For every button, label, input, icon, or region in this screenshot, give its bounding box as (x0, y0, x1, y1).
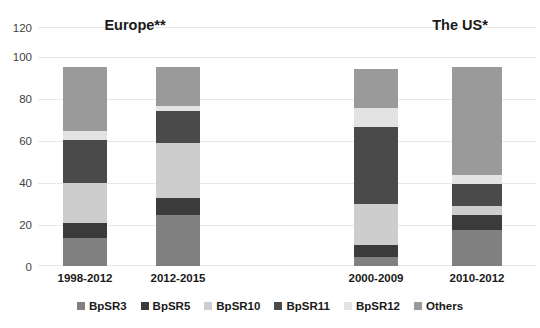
legend-swatch-icon (141, 302, 149, 310)
bar-segment-bpsr3[interactable] (156, 215, 200, 266)
legend-item-bpsr11[interactable]: BpSR11 (274, 300, 329, 312)
legend-label: BpSR12 (356, 300, 400, 312)
y-axis: 120 100 80 60 40 20 0 (0, 0, 38, 328)
group-title-us: The US* (400, 17, 520, 33)
y-tick-60: 60 (0, 135, 32, 147)
y-tick-120: 120 (0, 22, 32, 34)
gridline-100 (38, 57, 536, 58)
bar-segment-others[interactable] (354, 69, 398, 108)
bar-segment-bpsr10[interactable] (156, 143, 200, 198)
legend-label: BpSR3 (89, 300, 127, 312)
y-tick-80: 80 (0, 93, 32, 105)
bar-segment-bpsr11[interactable] (452, 184, 502, 206)
bar-segment-others[interactable] (452, 67, 502, 176)
bar-segment-bpsr10[interactable] (452, 206, 502, 215)
y-tick-40: 40 (0, 177, 32, 189)
bar-2012-2015[interactable] (156, 67, 200, 266)
chart-legend: BpSR3 BpSR5 BpSR10 BpSR11 BpSR12 Others (0, 300, 540, 312)
legend-swatch-icon (274, 302, 282, 310)
bar-segment-bpsr11[interactable] (156, 111, 200, 143)
legend-swatch-icon (204, 302, 212, 310)
chart-container: 120 100 80 60 40 20 0 Europe** The US* 1… (0, 0, 540, 328)
bar-segment-bpsr12[interactable] (63, 131, 107, 140)
bar-2010-2012[interactable] (452, 67, 502, 266)
legend-item-bpsr3[interactable]: BpSR3 (77, 300, 127, 312)
legend-label: Others (426, 300, 463, 312)
category-label-3: 2010-2012 (432, 272, 522, 284)
bar-segment-bpsr3[interactable] (354, 257, 398, 266)
bar-segment-bpsr10[interactable] (63, 183, 107, 223)
group-title-europe: Europe** (75, 17, 195, 33)
bar-segment-bpsr10[interactable] (354, 204, 398, 245)
y-tick-100: 100 (0, 51, 32, 63)
category-label-2: 2000-2009 (331, 272, 421, 284)
bar-segment-bpsr3[interactable] (63, 238, 107, 266)
bar-segment-others[interactable] (63, 67, 107, 131)
legend-swatch-icon (414, 302, 422, 310)
bar-segment-bpsr3[interactable] (452, 230, 502, 266)
legend-item-bpsr12[interactable]: BpSR12 (344, 300, 400, 312)
bar-segment-others[interactable] (156, 67, 200, 106)
bar-2000-2009[interactable] (354, 69, 398, 266)
bar-segment-bpsr5[interactable] (354, 245, 398, 257)
legend-item-bpsr10[interactable]: BpSR10 (204, 300, 260, 312)
bar-segment-bpsr11[interactable] (354, 127, 398, 204)
y-tick-0: 0 (0, 261, 32, 273)
legend-item-bpsr5[interactable]: BpSR5 (141, 300, 191, 312)
legend-swatch-icon (344, 302, 352, 310)
legend-swatch-icon (77, 302, 85, 310)
category-label-0: 1998-2012 (40, 272, 130, 284)
legend-label: BpSR11 (286, 300, 329, 312)
bar-segment-bpsr12[interactable] (354, 108, 398, 127)
legend-label: BpSR10 (216, 300, 260, 312)
y-tick-20: 20 (0, 219, 32, 231)
legend-label: BpSR5 (153, 300, 191, 312)
legend-item-others[interactable]: Others (414, 300, 463, 312)
bar-segment-bpsr5[interactable] (156, 198, 200, 214)
bar-segment-bpsr5[interactable] (63, 223, 107, 238)
bar-segment-bpsr5[interactable] (452, 215, 502, 229)
plot-area (38, 27, 536, 266)
bar-segment-bpsr12[interactable] (452, 175, 502, 184)
category-label-1: 2012-2015 (133, 272, 223, 284)
bar-1998-2012[interactable] (63, 67, 107, 266)
bar-segment-bpsr11[interactable] (63, 140, 107, 184)
